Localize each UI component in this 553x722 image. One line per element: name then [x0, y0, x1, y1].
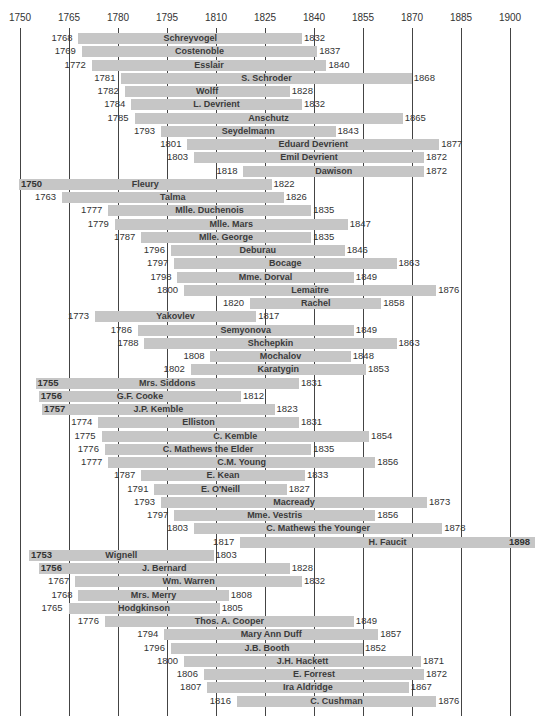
timeline-row: L. Devrient17841832 — [0, 98, 553, 110]
lifespan-bar: Mrs. Merry — [78, 590, 228, 601]
timeline-row: S. Schroder17811868 — [0, 72, 553, 84]
person-name: Deburau — [171, 245, 345, 256]
lifespan-bar: Semyonova — [138, 325, 354, 336]
person-name: Macready — [161, 497, 427, 508]
person-name: J.H. Hackett — [184, 656, 421, 667]
timeline-row: Emil Devrient18031872 — [0, 151, 553, 163]
timeline-row: Macready17931873 — [0, 496, 553, 508]
person-name: Wm. Warren — [75, 576, 302, 587]
lifespan-bar: Mlle. George — [141, 232, 311, 243]
lifespan-bar: Anschutz — [135, 113, 403, 124]
end-year: 1803 — [216, 549, 237, 561]
start-year: 1808 — [183, 350, 204, 362]
timeline-row: Esslair17721840 — [0, 59, 553, 71]
timeline-row: Talma17631826 — [0, 191, 553, 203]
lifespan-bar: Emil Devrient — [194, 152, 424, 163]
timeline-row: Anschutz17851865 — [0, 112, 553, 124]
person-name: Hodgkinson — [69, 603, 220, 614]
timeline-row: C. Mathews the Elder17761835 — [0, 443, 553, 455]
end-year: 1832 — [304, 32, 325, 44]
lifespan-bar: S. Schroder — [121, 73, 412, 84]
timeline-row: Ira Aldridge18071867 — [0, 681, 553, 693]
lifespan-bar: Mme. Vestris — [174, 510, 375, 521]
end-year: 1835 — [313, 443, 334, 455]
timeline-row: Mme. Vestris17971856 — [0, 509, 553, 521]
start-year: 1782 — [98, 85, 119, 97]
lifespan-bar: C. Cushman — [237, 696, 436, 707]
person-name: Anschutz — [135, 113, 403, 124]
end-year: 1831 — [301, 377, 322, 389]
start-year: 1767 — [48, 575, 69, 587]
lifespan-bar: J.H. Hackett — [184, 656, 421, 667]
timeline-row: Mlle. George17871835 — [0, 231, 553, 243]
person-name: Mary Ann Duff — [164, 629, 378, 640]
lifespan-bar: Elliston — [98, 417, 299, 428]
lifespan-bar: Macready — [161, 497, 427, 508]
start-year: 1755 — [38, 377, 59, 389]
timeline-row: E. Kean17871833 — [0, 469, 553, 481]
timeline-row: Wignell17531803 — [0, 549, 553, 561]
timeline-row: Fleury17501822 — [0, 178, 553, 190]
timeline-row: J.P. Kemble17571823 — [0, 403, 553, 415]
timeline-row: Thos. A. Cooper17761849 — [0, 615, 553, 627]
start-year: 1765 — [42, 602, 63, 614]
timeline-row: G.F. Cooke17561812 — [0, 390, 553, 402]
person-name: Talma — [62, 192, 284, 203]
end-year: 1867 — [411, 681, 432, 693]
start-year: 1779 — [88, 218, 109, 230]
end-year: 1858 — [383, 297, 404, 309]
person-name: Wolff — [125, 86, 290, 97]
lifespan-bar: Bocage — [174, 258, 396, 269]
x-tick-label: 1825 — [254, 12, 276, 23]
start-year: 1784 — [104, 98, 125, 110]
timeline-row: Hodgkinson17651805 — [0, 602, 553, 614]
person-name: L. Devrient — [131, 99, 302, 110]
end-year: 1868 — [414, 72, 435, 84]
timeline-row: C. Cushman18161876 — [0, 695, 553, 707]
person-name: Dawison — [243, 166, 424, 177]
start-year: 1807 — [180, 681, 201, 693]
timeline-row: Mme. Dorval17981849 — [0, 271, 553, 283]
person-name: S. Schroder — [121, 73, 412, 84]
end-year: 1835 — [313, 204, 334, 216]
timeline-row: C. Kemble17751854 — [0, 430, 553, 442]
end-year: 1833 — [307, 469, 328, 481]
end-year: 1828 — [292, 562, 313, 574]
person-name: Mlle. Mars — [115, 219, 348, 230]
lifespan-bar: J.P. Kemble — [42, 404, 274, 415]
person-name: E. Forrest — [204, 669, 424, 680]
timeline-row: J.H. Hackett18001871 — [0, 655, 553, 667]
start-year: 1769 — [55, 45, 76, 57]
person-name: E. Kean — [141, 470, 305, 481]
person-name: C.M. Young — [108, 457, 375, 468]
lifespan-bar: Schreyvogel — [78, 33, 302, 44]
timeline-row: Dawison18181872 — [0, 165, 553, 177]
lifespan-bar: Mlle. Duchenois — [108, 205, 311, 216]
end-year: 1876 — [438, 284, 459, 296]
start-year: 1774 — [71, 416, 92, 428]
lifespan-bar: J. Bernard — [39, 563, 290, 574]
start-year: 1756 — [41, 390, 62, 402]
lifespan-bar: Wignell — [29, 550, 214, 561]
person-name: Yakovlev — [95, 311, 256, 322]
timeline-row: Wolff17821828 — [0, 85, 553, 97]
start-year: 1777 — [81, 456, 102, 468]
timeline-row: Mrs. Merry17681808 — [0, 589, 553, 601]
start-year: 1777 — [81, 204, 102, 216]
start-year: 1798 — [150, 271, 171, 283]
x-tick-label: 1810 — [205, 12, 227, 23]
person-name: Esslair — [92, 60, 327, 71]
lifespan-bar: J.B. Booth — [171, 643, 363, 654]
person-name: Lemaitre — [184, 285, 436, 296]
person-name: J.P. Kemble — [42, 404, 274, 415]
end-year: 1877 — [441, 138, 462, 150]
lifespan-bar: Lemaitre — [184, 285, 436, 296]
person-name: Eduard Devrient — [187, 139, 439, 150]
lifespan-bar: C. Mathews the Younger — [194, 523, 442, 534]
lifespan-bar: Shchepkin — [144, 338, 396, 349]
start-year: 1773 — [68, 310, 89, 322]
timeline-row: Mary Ann Duff17941857 — [0, 628, 553, 640]
start-year: 1786 — [111, 324, 132, 336]
person-name: H. Faucit — [240, 537, 535, 548]
person-name: Bocage — [174, 258, 396, 269]
